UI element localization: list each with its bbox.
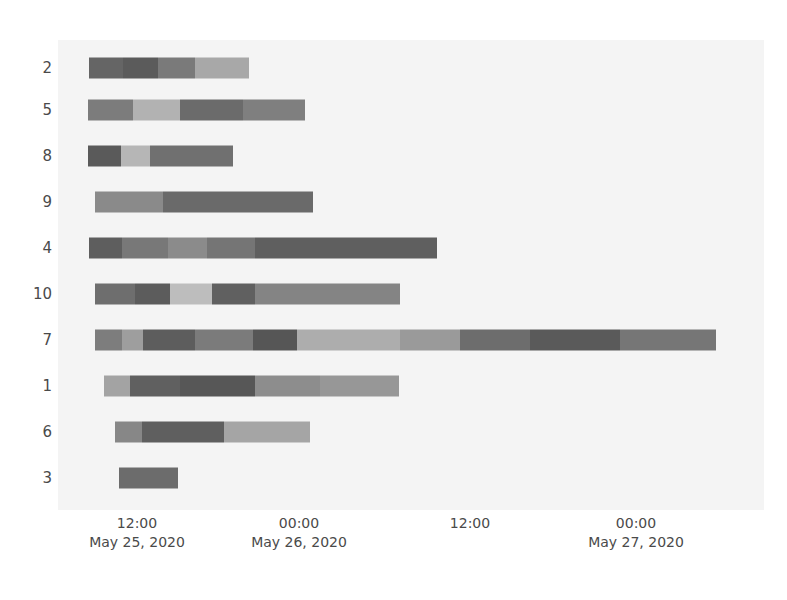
bar-segment[interactable] (123, 58, 158, 79)
x-tick-date: May 25, 2020 (57, 533, 217, 552)
bar-segment[interactable] (168, 238, 207, 259)
bar-segment[interactable] (255, 376, 320, 397)
bar-segment[interactable] (142, 422, 224, 443)
x-tick-time: 00:00 (219, 514, 379, 533)
bar-segment[interactable] (89, 238, 122, 259)
bar-segment[interactable] (115, 422, 142, 443)
bar-segment[interactable] (119, 468, 178, 489)
x-tick-label: 12:00 (390, 514, 550, 533)
bar-segment[interactable] (320, 376, 399, 397)
x-tick-date: May 27, 2020 (556, 533, 716, 552)
y-tick-label: 6 (12, 425, 52, 440)
x-tick-label: 00:00May 27, 2020 (556, 514, 716, 552)
bar-segment[interactable] (95, 330, 122, 351)
bar-segment[interactable] (121, 146, 150, 167)
bar-row[interactable] (88, 146, 233, 167)
bar-segment[interactable] (253, 330, 297, 351)
bar-segment[interactable] (530, 330, 620, 351)
x-tick-time: 00:00 (556, 514, 716, 533)
gantt-timeline-chart: 25894107163 12:00May 25, 202000:00May 26… (0, 0, 787, 600)
bar-segment[interactable] (243, 100, 305, 121)
bar-segment[interactable] (180, 100, 243, 121)
bar-row[interactable] (89, 238, 437, 259)
bar-segment[interactable] (620, 330, 716, 351)
bar-segment[interactable] (88, 146, 121, 167)
bar-segment[interactable] (130, 376, 180, 397)
bar-segment[interactable] (170, 284, 212, 305)
x-axis: 12:00May 25, 202000:00May 26, 202012:000… (0, 514, 787, 574)
x-tick-time: 12:00 (390, 514, 550, 533)
bar-segment[interactable] (255, 238, 437, 259)
bar-row[interactable] (95, 192, 313, 213)
x-tick-time: 12:00 (57, 514, 217, 533)
bar-segment[interactable] (180, 376, 255, 397)
y-tick-label: 2 (12, 61, 52, 76)
bar-row[interactable] (95, 330, 716, 351)
bar-segment[interactable] (95, 284, 135, 305)
bar-segment[interactable] (122, 238, 168, 259)
bar-segment[interactable] (150, 146, 233, 167)
y-axis: 25894107163 (8, 40, 52, 510)
y-tick-label: 5 (12, 103, 52, 118)
bar-segment[interactable] (212, 284, 255, 305)
y-tick-label: 7 (12, 333, 52, 348)
bar-segment[interactable] (122, 330, 143, 351)
bar-segment[interactable] (158, 58, 195, 79)
bar-segment[interactable] (104, 376, 130, 397)
bar-segment[interactable] (163, 192, 313, 213)
bar-row[interactable] (95, 284, 400, 305)
y-tick-label: 1 (12, 379, 52, 394)
bar-row[interactable] (104, 376, 399, 397)
bar-segment[interactable] (195, 58, 249, 79)
bar-segment[interactable] (297, 330, 400, 351)
bar-segment[interactable] (143, 330, 195, 351)
bar-row[interactable] (115, 422, 310, 443)
y-tick-label: 8 (12, 149, 52, 164)
y-tick-label: 3 (12, 471, 52, 486)
bar-segment[interactable] (135, 284, 170, 305)
bar-row[interactable] (89, 58, 249, 79)
bar-segment[interactable] (255, 284, 400, 305)
bar-segment[interactable] (195, 330, 253, 351)
y-tick-label: 9 (12, 195, 52, 210)
x-tick-label: 12:00May 25, 2020 (57, 514, 217, 552)
bar-row[interactable] (119, 468, 178, 489)
x-tick-date: May 26, 2020 (219, 533, 379, 552)
x-tick-label: 00:00May 26, 2020 (219, 514, 379, 552)
bar-segment[interactable] (89, 58, 123, 79)
bar-segment[interactable] (400, 330, 460, 351)
bar-segment[interactable] (133, 100, 180, 121)
bar-segment[interactable] (88, 100, 133, 121)
y-tick-label: 4 (12, 241, 52, 256)
y-tick-label: 10 (12, 287, 52, 302)
bar-segment[interactable] (207, 238, 255, 259)
bar-segment[interactable] (224, 422, 310, 443)
bar-row[interactable] (88, 100, 305, 121)
bar-segment[interactable] (460, 330, 530, 351)
bar-segment[interactable] (95, 192, 163, 213)
